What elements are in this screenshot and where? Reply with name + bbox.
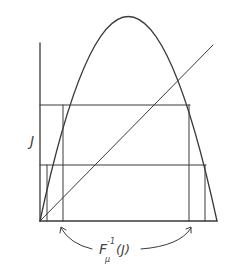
- parabola-curve: [40, 17, 217, 222]
- diagonal-line: [40, 45, 213, 221]
- arrow-left-head: [60, 227, 66, 233]
- preimage-label-subscript: μ: [104, 255, 110, 264]
- arrow-left-curve: [61, 228, 92, 249]
- preimage-label-argument: (J): [116, 242, 130, 257]
- diagram-canvas: J F -1 μ (J): [0, 0, 229, 271]
- preimage-label-superscript: -1: [107, 237, 115, 246]
- arrow-right-curve: [141, 228, 191, 249]
- y-axis-label: J: [27, 133, 34, 149]
